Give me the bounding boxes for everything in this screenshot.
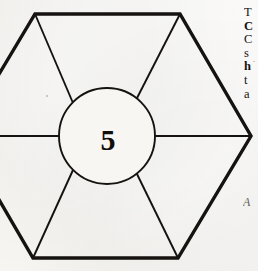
text-line: a <box>244 88 258 102</box>
text-line: C <box>244 33 258 47</box>
spoke-top-left-icon <box>35 14 73 103</box>
spoke-bottom-left-icon <box>33 170 73 258</box>
scanned-page: 5 T C C s h t a A <box>0 0 258 271</box>
text-line: h <box>244 60 258 74</box>
hexagon-diagram: 5 <box>0 0 258 271</box>
spoke-bottom-right-icon <box>136 172 178 258</box>
caption-mark: A <box>243 195 258 210</box>
body-text-column: T C C s h t a <box>244 6 258 101</box>
spoke-top-right-icon <box>136 14 180 100</box>
text-line: t <box>244 74 258 88</box>
text-line: s <box>244 47 258 61</box>
text-line: T <box>244 6 258 20</box>
center-label: 5 <box>101 123 116 156</box>
scan-speck <box>46 95 48 97</box>
text-line: C <box>244 20 258 34</box>
